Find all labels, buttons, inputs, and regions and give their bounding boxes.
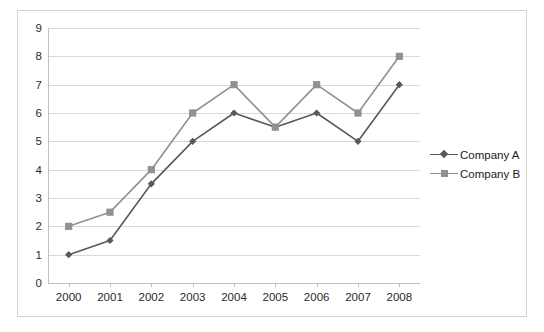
y-tick-label-5: 5: [22, 136, 42, 148]
gridline-5: [48, 141, 420, 142]
legend-marker-diamond-icon: [430, 149, 458, 161]
x-tick-mark-2002: [151, 283, 152, 287]
x-tick-mark-2001: [110, 283, 111, 287]
y-axis-labels: 9 8 7 6 5 4 3 2 1 0: [18, 0, 42, 332]
x-tick-mark-2008: [399, 283, 400, 287]
x-tick-mark-2004: [234, 283, 235, 287]
x-tick-mark-2005: [275, 283, 276, 287]
gridline-8: [48, 56, 420, 57]
legend-label-company-a: Company A: [458, 149, 519, 161]
x-tick-mark-2007: [358, 283, 359, 287]
x-tick-label-2001: 2001: [88, 291, 132, 304]
y-tick-label-2: 2: [22, 221, 42, 233]
chart-legend: Company A Company B: [430, 145, 522, 183]
x-tick-label-2008: 2008: [377, 291, 421, 304]
x-tick-mark-2000: [69, 283, 70, 287]
plot-area: [48, 28, 420, 283]
gridline-6: [48, 113, 420, 114]
x-tick-label-2007: 2007: [336, 291, 380, 304]
gridline-3: [48, 198, 420, 199]
legend-marker-square-icon: [430, 168, 458, 180]
x-tick-label-2004: 2004: [212, 291, 256, 304]
legend-label-company-b: Company B: [458, 168, 520, 180]
y-tick-label-8: 8: [22, 51, 42, 63]
x-tick-label-2002: 2002: [129, 291, 173, 304]
gridline-7: [48, 85, 420, 86]
y-tick-label-7: 7: [22, 80, 42, 92]
x-tick-label-2006: 2006: [295, 291, 339, 304]
gridline-2: [48, 226, 420, 227]
x-tick-label-2000: 2000: [47, 291, 91, 304]
y-tick-label-0: 0: [22, 278, 42, 290]
x-tick-label-2003: 2003: [171, 291, 215, 304]
gridline-1: [48, 255, 420, 256]
x-tick-mark-2006: [317, 283, 318, 287]
gridline-9: [48, 28, 420, 29]
x-tick-label-2005: 2005: [253, 291, 297, 304]
y-tick-label-3: 3: [22, 193, 42, 205]
y-tick-label-6: 6: [22, 108, 42, 120]
chart-container: 9 8 7 6 5 4 3 2 1 0 2000 2001 2002 2003 …: [0, 0, 544, 332]
y-tick-label-9: 9: [22, 23, 42, 35]
gridline-4: [48, 170, 420, 171]
y-tick-label-1: 1: [22, 250, 42, 262]
legend-item-company-b[interactable]: Company B: [430, 164, 522, 183]
y-tick-label-4: 4: [22, 165, 42, 177]
x-tick-mark-2003: [193, 283, 194, 287]
legend-item-company-a[interactable]: Company A: [430, 145, 522, 164]
y-axis-line: [48, 28, 49, 284]
